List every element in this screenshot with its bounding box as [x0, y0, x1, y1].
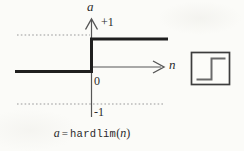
- caption-paren-close: ): [126, 126, 130, 141]
- x-axis-label: n: [169, 59, 176, 71]
- lower-level-label: -1: [94, 106, 104, 118]
- caption-lhs: a: [54, 126, 60, 141]
- y-axis-label: a: [87, 1, 94, 13]
- figure-caption: a = hardlim ( n ): [20, 126, 164, 141]
- caption-function: hardlim: [70, 128, 116, 140]
- origin-label: 0: [94, 75, 100, 87]
- caption-equals: =: [62, 127, 68, 139]
- upper-level-label: +1: [101, 16, 114, 28]
- hardlim-figure: a +1 n 0 -1 a = hardlim ( n ): [0, 0, 244, 151]
- hardlim-icon-badge: [192, 53, 230, 85]
